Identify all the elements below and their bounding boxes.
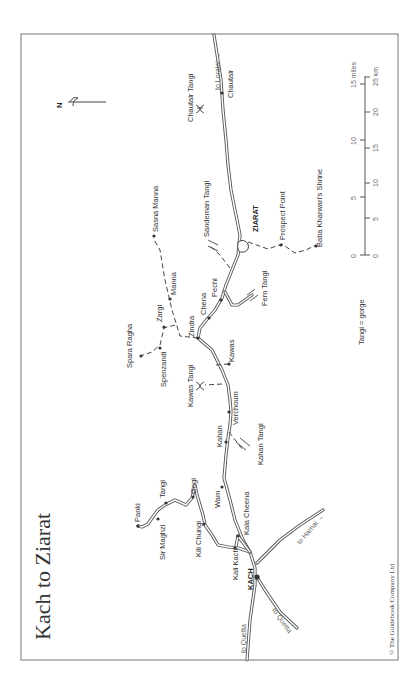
label-to-quetta-main: to Quetta — [240, 624, 248, 653]
harnai-road — [257, 510, 323, 563]
track-baba-kharwari — [248, 242, 316, 253]
scale-km-15: 15 — [372, 144, 379, 152]
copyright-text: © The Guidebook Company Ltd — [388, 563, 396, 655]
place-kawas-tangi: Kawas Tangi — [186, 364, 195, 407]
place-kala-cheena: Kala Cheena — [242, 491, 251, 535]
place-manna: Manna — [169, 271, 178, 295]
place-spenzandi: Spenzandi — [159, 351, 168, 387]
town-label-ziarat: ZIARAT — [251, 205, 260, 232]
scale-km-0: 0 — [372, 254, 379, 258]
place-kahan-tangi: Kahan Tangi — [256, 423, 265, 465]
place-chena: Chena — [199, 292, 208, 315]
gorge-icon — [236, 438, 250, 450]
scale-mile-5: 5 — [350, 196, 357, 200]
gorge-icon — [196, 105, 204, 113]
place-baba-kharwari: Baba Kharwari's Shrine — [315, 169, 324, 247]
place-chautair-tangi: Chautair Tangi — [186, 73, 195, 122]
gorge-icon — [196, 382, 204, 390]
place-zindra: Zindra — [187, 315, 196, 337]
label-to-loralai: to Loralai → — [214, 52, 221, 90]
place-fern-tangi: Fern Tangi — [260, 270, 269, 306]
place-panki: Panki — [133, 503, 142, 522]
track-zargi-spara-ragha — [140, 325, 175, 356]
map-canvas: Kach to Ziarat © The Guidebook Company L… — [0, 0, 418, 695]
place-tangi: Tangi — [158, 480, 167, 498]
scale-mile-10: 10 — [350, 137, 357, 145]
place-kawas: Kawas — [227, 339, 236, 362]
scale-km-5: 5 — [372, 217, 379, 221]
place-spara-ragha: Spara Ragha — [125, 323, 134, 368]
track-sandeman-tangi — [210, 246, 230, 268]
scale-bar: 0 5 10 15 miles 0 5 10 15 20 25 km — [350, 61, 379, 258]
place-gogi: Gogi — [189, 478, 198, 494]
track-kawas-tangi — [205, 384, 222, 385]
place-pechi: Pechi — [210, 278, 219, 297]
scale-mile-15: 15 miles — [350, 61, 357, 88]
legend-gorge-note: Tangi = gorge — [357, 299, 366, 345]
place-prospect-point: Prospect Point — [278, 190, 287, 240]
quetta-branch-road — [257, 577, 297, 628]
place-verchoum: Verchoum — [231, 391, 240, 425]
place-zargi: Zargi — [155, 305, 164, 322]
place-wam: Wam — [213, 491, 222, 508]
place-chautair: Chautair — [226, 69, 235, 98]
scale-km-25: 25 km — [372, 67, 379, 86]
scale-mile-0: 0 — [350, 254, 357, 258]
place-sandeman-tangi: Sandeman Tangi — [202, 181, 211, 237]
place-kili-chungi: Kili Chungi — [194, 521, 203, 557]
place-sir-maghzi: Sir Maghzi — [158, 524, 167, 560]
place-kali-kach: Kali Kach — [231, 548, 240, 580]
map-title: Kach to Ziarat — [30, 513, 55, 640]
scale-km-20: 20 — [372, 108, 379, 116]
place-kahan: Kahan — [215, 425, 224, 447]
place-sasna-manna: Sasna Manna — [151, 185, 160, 232]
town-label-kach: KACH — [246, 568, 255, 590]
north-label: N — [55, 103, 64, 108]
scale-km-10: 10 — [372, 179, 379, 187]
north-arrow: N — [55, 98, 106, 109]
track-kahan-tangi — [229, 432, 243, 450]
ziarat-town-marker — [238, 240, 249, 252]
